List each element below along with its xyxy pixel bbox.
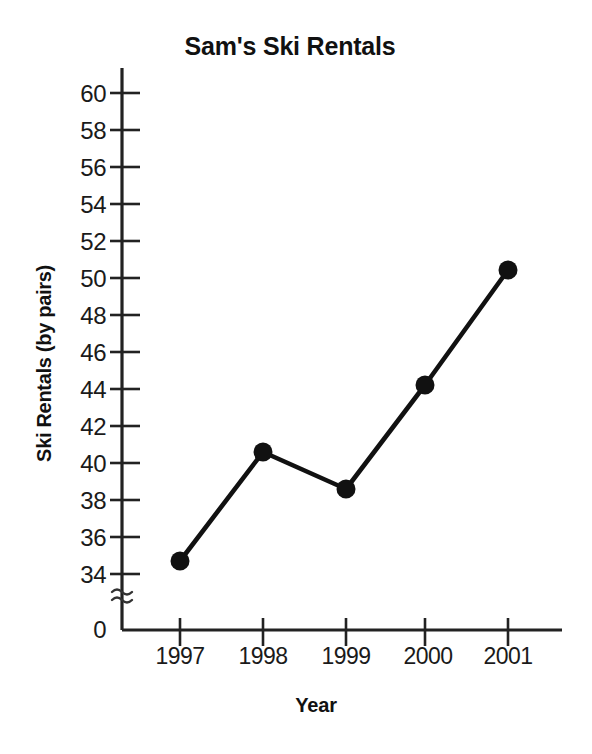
plot-area bbox=[0, 0, 592, 754]
data-point-marker bbox=[337, 480, 356, 499]
line-chart: Sam's Ski Rentals Ski Rentals (by pairs)… bbox=[0, 0, 592, 754]
data-line bbox=[180, 270, 508, 561]
data-point-marker bbox=[416, 376, 435, 395]
y-tick-marks bbox=[110, 93, 140, 574]
data-point-marker bbox=[499, 261, 518, 280]
data-point-marker bbox=[254, 443, 273, 462]
data-point-marker bbox=[171, 552, 190, 571]
x-tick-marks bbox=[180, 618, 508, 646]
